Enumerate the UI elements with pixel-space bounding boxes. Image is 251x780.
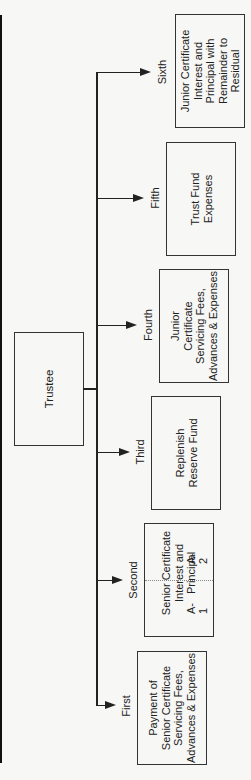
fifth-box: Trust Fund Expenses: [166, 142, 236, 256]
page-border-line: [0, 15, 2, 763]
distribution-trunk-line: [96, 72, 98, 706]
fourth-box-text: Junior Certificate Servicing Fees, Advan…: [169, 271, 219, 381]
trustee-box: Trustee: [14, 332, 84, 446]
second-box: Senior Certificate Interest and Principa…: [144, 523, 214, 637]
second-a1-label: A-1: [185, 598, 209, 614]
second-branch-line: [97, 580, 113, 582]
sixth-box-text: Junior Certificate Interest and Principa…: [179, 30, 242, 113]
fifth-branch-line: [97, 198, 134, 200]
sixth-branch-line: [97, 72, 141, 74]
first-box-text: Payment of Senior Certificate Servicing …: [147, 653, 197, 763]
fifth-arrow-icon: [133, 194, 144, 202]
fourth-branch-line: [97, 325, 127, 327]
third-branch-line: [97, 452, 120, 454]
second-a2-label: A-2: [185, 548, 209, 564]
fourth-label: Fourth: [142, 309, 154, 341]
sixth-label: Sixth: [156, 60, 168, 84]
third-arrow-icon: [119, 448, 130, 456]
third-label: Third: [134, 439, 146, 464]
sixth-box: Junior Certificate Interest and Principa…: [175, 14, 245, 128]
fifth-box-text: Trust Fund Expenses: [189, 173, 214, 226]
sixth-arrow-icon: [140, 68, 151, 76]
second-label: Second: [127, 561, 139, 598]
fourth-arrow-icon: [126, 321, 137, 329]
second-arrow-icon: [112, 576, 123, 584]
first-arrow-icon: [105, 701, 116, 709]
first-box: Payment of Senior Certificate Servicing …: [137, 651, 207, 765]
first-label: First: [120, 695, 132, 716]
trustee-label: Trustee: [43, 370, 56, 409]
third-box: Replenish Reserve Fund: [151, 396, 221, 510]
fourth-box: Junior Certificate Servicing Fees, Advan…: [159, 269, 229, 383]
third-box-text: Replenish Reserve Fund: [174, 418, 199, 487]
fifth-label: Fifth: [149, 187, 161, 208]
